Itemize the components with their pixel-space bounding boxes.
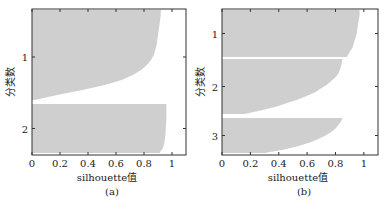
y-tick-label: 2 bbox=[22, 124, 28, 135]
cluster-1-silhouette bbox=[32, 10, 161, 100]
panel-caption: (a) bbox=[105, 186, 119, 197]
x-tick-label: 0 bbox=[29, 158, 35, 169]
x-tick-label: 0.8 bbox=[328, 158, 344, 169]
x-tick-label: 0.4 bbox=[80, 158, 96, 169]
x-tick-label: 0.8 bbox=[136, 158, 152, 169]
x-tick-label: 0.6 bbox=[108, 158, 124, 169]
x-tick-label: 0.2 bbox=[52, 158, 68, 169]
cluster-2-silhouette bbox=[222, 59, 343, 114]
y-axis-label: 分类数 bbox=[4, 67, 16, 97]
x-tick-label: 0 bbox=[219, 158, 225, 169]
x-axis-label: silhouette值 bbox=[268, 171, 328, 183]
x-tick-label: 1 bbox=[169, 158, 175, 169]
cluster-3-silhouette bbox=[222, 118, 343, 153]
silhouette-panel-a: 00.20.40.60.8112silhouette值分类数(a) bbox=[4, 9, 186, 197]
cluster-2-silhouette bbox=[32, 104, 166, 153]
y-tick-label: 2 bbox=[212, 82, 218, 93]
x-axis-label: silhouette值 bbox=[77, 171, 137, 183]
x-tick-label: 0.2 bbox=[242, 158, 258, 169]
y-tick-label: 1 bbox=[212, 29, 218, 40]
panel-caption: (b) bbox=[297, 186, 311, 197]
x-tick-label: 1 bbox=[361, 158, 367, 169]
y-tick-label: 3 bbox=[212, 131, 218, 142]
silhouette-figure: 00.20.40.60.8112silhouette值分类数(a)00.20.4… bbox=[0, 0, 387, 210]
silhouette-panel-b: 00.20.40.60.81123silhouette值分类数(b) bbox=[194, 9, 378, 197]
cluster-1-silhouette bbox=[222, 10, 360, 57]
y-tick-label: 1 bbox=[22, 52, 28, 63]
x-tick-label: 0.6 bbox=[299, 158, 315, 169]
y-axis-label: 分类数 bbox=[194, 67, 206, 97]
x-tick-label: 0.4 bbox=[271, 158, 287, 169]
